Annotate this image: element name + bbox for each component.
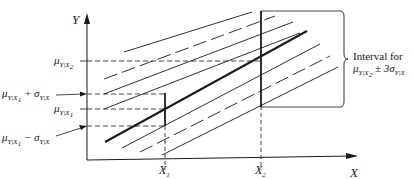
x-axis-label: X [350,166,358,179]
band-minus-3 [162,67,338,155]
x-axis-arrow [346,153,358,159]
regression-diagram [0,0,414,179]
band-minus-1 [122,44,320,148]
x2-tick-label: X2 [255,164,266,179]
interval-label-line2: μY|X2 ± 3σY|X [353,63,405,80]
interval-label-line1: Interval for [353,51,403,62]
x1-tick-label: X1 [159,164,170,179]
y-axis-label: Y [72,13,79,26]
y-axis-arrow [84,13,90,24]
label-mu-x1: μY|X1 [54,103,73,120]
arrow-plus-sigma [56,94,84,95]
label-mu-x1-minus-sigma: μY|X1 − σY|X [2,132,50,149]
x-axis [87,156,352,160]
band-plus-2 [104,16,275,79]
arrow-minus-sigma [56,127,84,136]
band-plus-1 [104,22,293,94]
mean-line [105,31,307,142]
label-mu-x2: μY|X2 [54,55,73,72]
interval-brace [340,11,348,107]
band-plus-0-5 [104,33,300,109]
label-mu-x1-plus-sigma: μY|X1 + σY|X [2,88,50,105]
